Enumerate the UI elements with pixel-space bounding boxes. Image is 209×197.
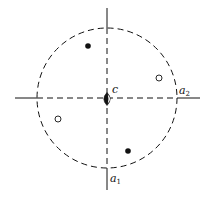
axis-a1-label: a1 bbox=[110, 172, 121, 186]
filled-pole-icon bbox=[125, 148, 131, 154]
twofold-axis-icon bbox=[104, 93, 110, 106]
center-label: c bbox=[112, 83, 118, 96]
filled-pole-icon bbox=[85, 43, 91, 49]
open-pole-icon bbox=[156, 75, 162, 81]
stereographic-projection: c a2 a1 bbox=[0, 0, 209, 197]
open-pole-icon bbox=[55, 116, 61, 122]
axis-a1-label-subscript: 1 bbox=[117, 178, 121, 186]
axis-a2-label-subscript: 2 bbox=[186, 90, 190, 98]
axis-a2-label: a2 bbox=[179, 84, 190, 98]
